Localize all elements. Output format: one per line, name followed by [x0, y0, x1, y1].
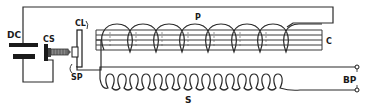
binding-posts-label: BP [343, 75, 357, 85]
primary-coil-label: P [195, 13, 201, 22]
secondary-coil: S [100, 67, 356, 105]
secondary-coil-label: S [185, 95, 191, 105]
contact-screw-label: CS [43, 35, 55, 44]
contact-screw: CS [43, 35, 71, 61]
contact-lever-label: CL [75, 19, 86, 28]
primary-coil: P [102, 13, 322, 52]
contact-lever: CL SP [70, 19, 88, 82]
spring-label: SP [71, 73, 83, 82]
battery-label: DC [7, 30, 21, 40]
induction-coil-diagram: DC CS CL SP C [0, 0, 372, 110]
binding-posts: BP [343, 65, 359, 92]
core-label: C [326, 37, 332, 46]
